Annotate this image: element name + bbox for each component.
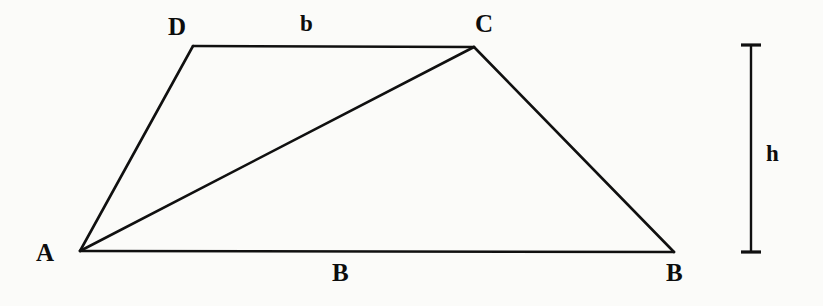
side-label-b-top: b: [300, 12, 313, 35]
side-ab-base: [80, 251, 674, 252]
vertex-label-a: A: [36, 240, 54, 265]
vertex-label-c: C: [475, 11, 493, 36]
height-measure-bar: [741, 45, 761, 252]
side-cb: [474, 47, 674, 252]
vertex-label-b: B: [666, 260, 683, 285]
vertex-label-d: D: [168, 14, 186, 39]
trapezoid-drawing: [0, 0, 823, 306]
diagonal-ac: [80, 47, 474, 251]
side-label-b-base: B: [332, 260, 349, 285]
height-label-h: h: [766, 142, 779, 165]
geometry-figure: A D b C B B h: [0, 0, 823, 306]
side-ad: [80, 46, 193, 251]
side-dc-top: [193, 46, 474, 47]
